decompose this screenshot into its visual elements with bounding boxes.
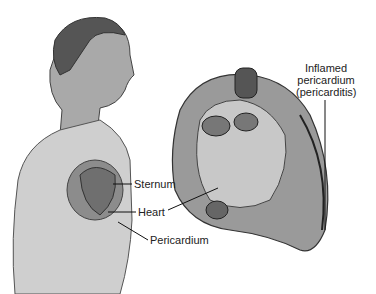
label-inflamed-line1: Inflamed <box>296 62 356 74</box>
label-heart: Heart <box>138 206 165 218</box>
label-inflamed-line3: (pericarditis) <box>296 86 356 98</box>
label-pericardium: Pericardium <box>150 234 209 246</box>
label-inflamed-line2: pericardium <box>296 74 356 86</box>
illustration <box>0 0 376 294</box>
man-figure <box>13 17 134 294</box>
label-sternum: Sternum <box>134 178 176 190</box>
